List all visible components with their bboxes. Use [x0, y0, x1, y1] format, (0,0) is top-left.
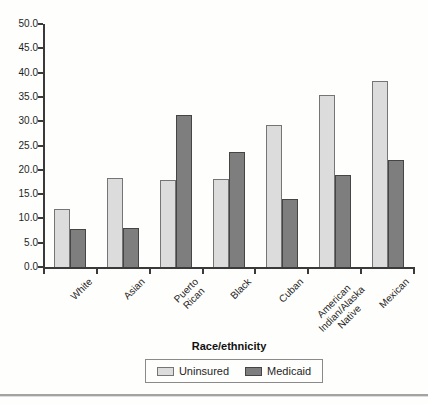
category-label-cuban: Cuban	[277, 276, 306, 305]
y-tick-label: 5.0	[0, 237, 38, 249]
legend-label-uninsured: Uninsured	[179, 365, 229, 377]
bar-uninsured-puerto-rican	[160, 180, 176, 267]
y-tick	[38, 47, 43, 49]
y-tick-label: 50.0	[0, 18, 38, 30]
y-tick	[38, 145, 43, 147]
category-label-american-indian-alaska-native: AmericanIndian/AlaskaNative	[308, 276, 374, 342]
bar-medicaid-cuban	[282, 199, 298, 267]
x-tick	[360, 269, 362, 274]
legend-item-uninsured: Uninsured	[157, 365, 229, 377]
legend-label-medicaid: Medicaid	[267, 365, 311, 377]
figure-bottom-rule	[0, 394, 428, 397]
y-tick	[38, 242, 43, 244]
legend-swatch-medicaid	[245, 367, 262, 376]
y-tick-label: 15.0	[0, 188, 38, 200]
category-label-black: Black	[228, 276, 253, 301]
legend: UninsuredMedicaid	[145, 359, 323, 383]
category-label-asian: Asian	[122, 276, 147, 301]
x-tick	[43, 269, 45, 274]
y-tick-label: 0.0	[0, 261, 38, 273]
bar-chart-plot-area: 0.05.010.015.020.025.030.035.040.045.050…	[0, 0, 428, 340]
bar-uninsured-cuban	[266, 125, 282, 267]
y-tick	[38, 266, 43, 268]
x-tick	[307, 269, 309, 274]
y-tick	[38, 23, 43, 25]
category-label-puerto-rican: PuertoRican	[171, 276, 207, 312]
bar-uninsured-black	[213, 179, 229, 267]
bar-uninsured-asian	[107, 178, 123, 267]
y-tick-label: 25.0	[0, 140, 38, 152]
y-tick	[38, 169, 43, 171]
y-tick	[38, 193, 43, 195]
y-tick-label: 20.0	[0, 164, 38, 176]
category-label-mexican: Mexican	[377, 276, 411, 310]
x-tick	[149, 269, 151, 274]
bar-medicaid-mexican	[388, 160, 404, 267]
x-axis-title: Race/ethnicity	[44, 340, 414, 352]
y-tick	[38, 217, 43, 219]
legend-item-medicaid: Medicaid	[245, 365, 311, 377]
bar-uninsured-american-indian-alaska-native	[319, 95, 335, 267]
y-tick-label: 40.0	[0, 67, 38, 79]
legend-swatch-uninsured	[157, 367, 174, 376]
y-tick	[38, 72, 43, 74]
bar-uninsured-mexican	[372, 81, 388, 267]
category-label-white: White	[68, 276, 94, 302]
y-tick	[38, 96, 43, 98]
bar-uninsured-white	[54, 209, 70, 267]
x-tick	[96, 269, 98, 274]
y-tick-label: 35.0	[0, 91, 38, 103]
x-tick	[254, 269, 256, 274]
y-tick-label: 45.0	[0, 42, 38, 54]
bar-medicaid-black	[229, 152, 245, 267]
x-tick	[202, 269, 204, 274]
y-tick-label: 10.0	[0, 212, 38, 224]
bar-medicaid-asian	[123, 228, 139, 267]
bar-medicaid-white	[70, 229, 86, 267]
bar-medicaid-puerto-rican	[176, 115, 192, 267]
x-tick	[413, 269, 415, 274]
figure: 0.05.010.015.020.025.030.035.040.045.050…	[0, 0, 428, 405]
y-axis	[43, 24, 45, 269]
bar-medicaid-american-indian-alaska-native	[335, 175, 351, 267]
y-tick-label: 30.0	[0, 115, 38, 127]
y-tick	[38, 120, 43, 122]
